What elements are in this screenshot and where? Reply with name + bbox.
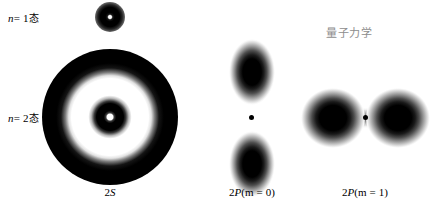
row-label-n2-equals: = 2: [14, 112, 29, 124]
orbital-figure: n= 1态 n= 2态 量子力学 2S 2P(m = 0) 2P(m = 1): [0, 0, 437, 209]
orbital-lobe-2p-m1-right: [366, 88, 430, 148]
orbital-lobe-2p-m0-upper: [229, 39, 275, 105]
caption-2p-m1-suffix: (m = 1): [354, 186, 388, 198]
caption-2p-m0-suffix: (m = 0): [241, 186, 275, 198]
row-label-n1-equals: = 1: [14, 12, 29, 24]
orbital-cloud-2s: [42, 49, 178, 185]
orbital-cloud-1s: [95, 2, 125, 32]
caption-2s-symbol: S: [110, 186, 116, 198]
caption-2p-m1: 2P(m = 1): [325, 186, 405, 198]
caption-2s: 2S: [70, 186, 150, 198]
nucleus-dot-2p-m0: [249, 115, 254, 120]
orbital-lobe-2p-m1-left: [301, 88, 365, 148]
row-label-n2: n= 2态: [8, 110, 39, 125]
caption-2p-m0: 2P(m = 0): [212, 186, 292, 198]
row-label-n1-state: 态: [29, 13, 39, 24]
watermark-text: 量子力学: [326, 24, 372, 40]
row-label-n2-state: 态: [29, 113, 39, 124]
nucleus-dot-2p-m1: [363, 115, 368, 120]
row-label-n1: n= 1态: [8, 10, 39, 25]
